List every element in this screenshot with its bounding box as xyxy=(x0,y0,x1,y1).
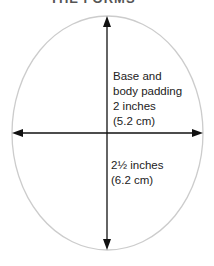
width-label: Base and body padding 2 inches (5.2 cm) xyxy=(113,69,182,129)
width-label-line: Base and xyxy=(113,69,182,84)
height-label: 2½ inches (6.2 cm) xyxy=(111,158,163,188)
arrow-down-icon xyxy=(103,239,111,250)
height-label-line: 2½ inches xyxy=(111,158,163,173)
arrow-left-icon xyxy=(12,129,23,137)
width-label-line: 2 inches xyxy=(113,99,182,114)
arrow-up-icon xyxy=(103,16,111,27)
height-label-line: (6.2 cm) xyxy=(111,173,163,188)
arrow-right-icon xyxy=(192,129,203,137)
width-label-line: (5.2 cm) xyxy=(113,114,182,129)
oval-diagram xyxy=(0,0,214,266)
width-label-line: body padding xyxy=(113,84,182,99)
